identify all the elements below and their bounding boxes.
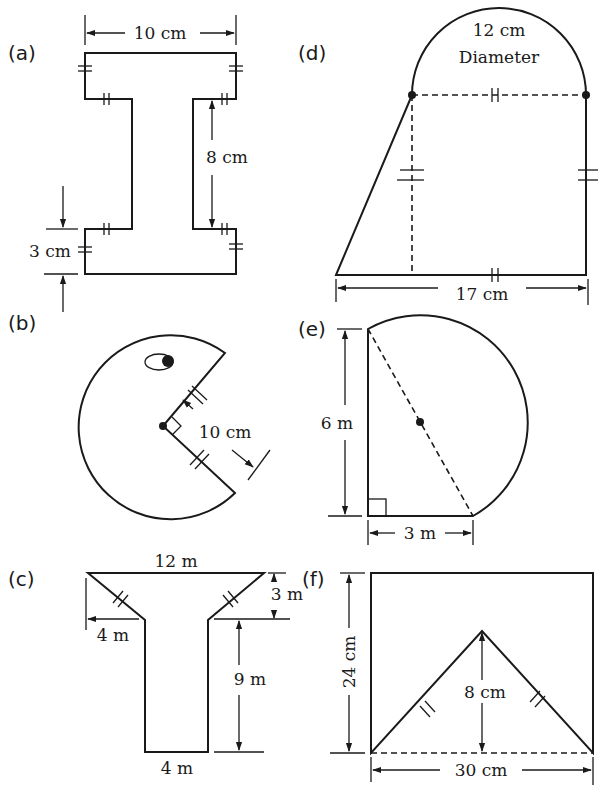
figure-b: (b) 10 cm	[8, 311, 270, 519]
label-3m: 3 m	[404, 523, 436, 543]
t-shape-outline	[88, 573, 264, 752]
dimension-8cm: 8 cm	[206, 101, 248, 227]
dimension-3cm: 3 cm	[29, 186, 78, 312]
label-12m: 12 m	[154, 551, 197, 571]
label-4m-stem: 4 m	[161, 758, 193, 778]
figure-f: (f) 24 cm 8 cm 30 cm	[302, 567, 593, 785]
label-3cm: 3 cm	[29, 241, 71, 261]
figure-e: (e) 6 m 3 m	[298, 315, 528, 545]
figure-e-label: (e)	[298, 317, 326, 341]
label-6m: 6 m	[321, 413, 353, 433]
figure-a-label: (a)	[8, 41, 36, 65]
dimension-17cm: 17 cm	[336, 279, 588, 305]
right-angle-mark	[172, 417, 181, 435]
center-dot	[159, 422, 167, 430]
center-dot	[416, 418, 424, 426]
dimension-3m: 3 m	[214, 573, 303, 619]
figure-f-label: (f)	[302, 567, 325, 591]
composite-outline	[368, 315, 528, 516]
congruence-ticks	[113, 591, 238, 607]
figure-c-label: (c)	[8, 567, 35, 591]
label-8cm: 8 cm	[464, 682, 506, 702]
label-diameter: Diameter	[459, 47, 540, 67]
dimension-6m: 6 m	[321, 329, 362, 516]
geometry-figures: (a) 10 cm 8 cm	[0, 0, 611, 794]
figure-b-label: (b)	[8, 311, 36, 335]
dimension-9m: 9 m	[214, 621, 266, 752]
label-17cm: 17 cm	[456, 284, 509, 304]
label-3m: 3 m	[271, 584, 303, 604]
dimension-30cm: 30 cm	[371, 757, 593, 785]
dimension-24cm: 24 cm	[330, 573, 365, 753]
eye-pupil	[162, 355, 174, 367]
figure-c: (c) 12 m 4 m 3 m 9 m 4 m	[8, 551, 303, 778]
vertex-dot	[582, 91, 590, 99]
figure-d-label: (d)	[298, 41, 326, 65]
label-10cm: 10 cm	[134, 23, 187, 43]
vertex-dot	[408, 91, 416, 99]
label-8cm: 8 cm	[206, 147, 248, 167]
dimension-10cm: 10 cm	[85, 15, 236, 45]
label-10cm: 10 cm	[199, 422, 252, 442]
label-9m: 9 m	[234, 669, 266, 689]
right-angle-mark	[368, 499, 386, 516]
figure-a: (a) 10 cm 8 cm	[8, 15, 248, 312]
label-24cm: 24 cm	[339, 636, 359, 689]
label-4m-overhang: 4 m	[97, 625, 129, 645]
dimension-3m: 3 m	[368, 520, 473, 545]
label-30cm: 30 cm	[455, 760, 508, 780]
dimension-4m-overhang: 4 m	[86, 578, 139, 645]
label-12cm: 12 cm	[473, 20, 526, 40]
congruence-ticks	[397, 88, 598, 282]
figure-d: (d) 12 cm Diameter 17 cm	[298, 8, 598, 305]
